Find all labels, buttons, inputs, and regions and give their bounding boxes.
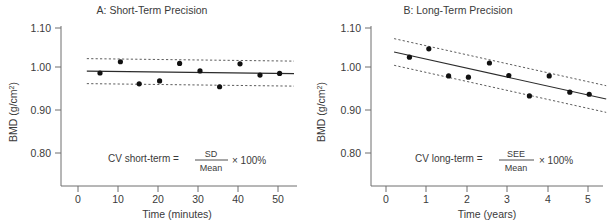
panel-b-formula-suffix: × 100%	[539, 155, 573, 166]
panel-b-xtick-4: 4	[545, 193, 551, 205]
svg-text:BMD (g/cm2): BMD (g/cm2)	[315, 82, 327, 142]
data-point	[466, 75, 471, 80]
confidence-band-lower	[394, 65, 606, 112]
panel-a-title: A: Short-Term Precision	[97, 4, 208, 16]
panel-a-svg: A: Short-Term Precision BMD (g/cm2) 1.10…	[0, 0, 304, 221]
data-point	[177, 61, 182, 66]
data-point	[407, 55, 412, 60]
panel-b-cv-formula: CV long-term = SEE Mean × 100%	[415, 149, 573, 173]
panel-b-y-ticks: 1.10 1.00 0.90 0.80	[341, 22, 371, 159]
panel-a-xtick-40: 40	[232, 193, 244, 205]
panel-b-x-axis-title: Time (years)	[458, 208, 517, 220]
panel-a-xtick-20: 20	[152, 193, 164, 205]
panel-a-formula-denominator: Mean	[200, 163, 223, 173]
panel-b-xtick-5: 5	[585, 193, 591, 205]
data-point	[97, 70, 102, 75]
panel-b-svg: B: Long-Term Precision BMD (g/cm2) 1.10 …	[303, 0, 607, 221]
data-point	[118, 59, 123, 64]
panel-b-xtick-1: 1	[423, 193, 429, 205]
panel-a-xtick-0: 0	[75, 193, 81, 205]
panel-b-title: B: Long-Term Precision	[403, 4, 512, 16]
panel-b-ytick-0.90: 0.90	[341, 104, 362, 116]
data-point	[217, 84, 222, 89]
panel-b-x-ticks: 0 1 2 3 4 5	[383, 186, 591, 205]
data-point	[157, 78, 162, 83]
data-point	[446, 73, 451, 78]
panel-a-formula-prefix: CV short-term =	[108, 153, 179, 164]
panel-b-formula-prefix: CV long-term =	[415, 153, 483, 164]
data-point	[587, 92, 592, 97]
panel-a-y-ticks: 1.10 1.00 0.90 0.80	[31, 22, 61, 159]
panel-a-formula-suffix: × 100%	[232, 155, 266, 166]
panel-b-ytick-1.10: 1.10	[341, 22, 362, 34]
data-point	[506, 73, 511, 78]
panel-a-cv-formula: CV short-term = SD Mean × 100%	[108, 149, 266, 173]
data-point	[567, 90, 572, 95]
panel-b-xtick-2: 2	[464, 193, 470, 205]
chart-panel-a: A: Short-Term Precision BMD (g/cm2) 1.10…	[0, 0, 304, 221]
panel-b-ylabel-close: )	[315, 82, 327, 86]
panel-a-ylabel-close: )	[7, 82, 19, 86]
panel-a-mean-line	[87, 71, 294, 74]
panel-a-formula-numerator: SD	[205, 149, 218, 159]
panel-b-formula-denominator: Mean	[505, 163, 528, 173]
data-point	[487, 60, 492, 65]
panel-a-ytick-0.80: 0.80	[31, 147, 52, 159]
data-point	[137, 81, 142, 86]
panel-a-xtick-30: 30	[192, 193, 204, 205]
confidence-band-lower	[87, 84, 294, 87]
panel-a-ytick-1.10: 1.10	[31, 22, 52, 34]
data-point	[237, 61, 242, 66]
svg-text:BMD (g/cm2): BMD (g/cm2)	[7, 82, 19, 142]
panel-b-ylabel-main: BMD (g/cm	[315, 89, 327, 142]
panel-a-ylabel-main: BMD (g/cm	[7, 89, 19, 142]
panel-b-ytick-1.00: 1.00	[341, 61, 362, 73]
data-point	[277, 71, 282, 76]
data-point	[547, 73, 552, 78]
panel-a-ytick-0.90: 0.90	[31, 104, 52, 116]
figure-container: A: Short-Term Precision BMD (g/cm2) 1.10…	[0, 0, 607, 221]
panel-b-data-points	[407, 46, 592, 98]
data-point	[527, 93, 532, 98]
panel-b-formula-numerator: SEE	[507, 149, 525, 159]
confidence-band-upper	[394, 39, 606, 86]
panel-a-xtick-50: 50	[272, 193, 284, 205]
data-point	[426, 46, 431, 51]
panel-a-x-ticks: 0 10 20 30 40 50	[75, 186, 284, 205]
panel-b-xtick-3: 3	[504, 193, 510, 205]
data-point	[257, 72, 262, 77]
confidence-band-upper	[87, 59, 294, 62]
panel-b-regression-line	[394, 52, 606, 99]
panel-a-xtick-10: 10	[112, 193, 124, 205]
panel-b-y-axis-title: BMD (g/cm2)	[315, 82, 327, 142]
panel-a-x-axis-title: Time (minutes)	[142, 208, 212, 220]
panel-b-xtick-0: 0	[383, 193, 389, 205]
panel-a-y-axis-title: BMD (g/cm2)	[7, 82, 19, 142]
data-point	[197, 68, 202, 73]
panel-b-ytick-0.80: 0.80	[341, 147, 362, 159]
panel-a-ytick-1.00: 1.00	[31, 61, 52, 73]
chart-panel-b: B: Long-Term Precision BMD (g/cm2) 1.10 …	[303, 0, 607, 221]
